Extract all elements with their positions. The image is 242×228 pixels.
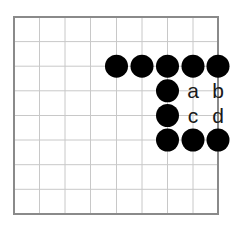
black-stone (156, 55, 179, 78)
point-label-a: a (187, 79, 199, 102)
black-stone (156, 79, 179, 102)
black-stone (156, 104, 179, 127)
black-stone (131, 55, 154, 78)
black-stone (207, 55, 230, 78)
black-stone (182, 129, 205, 152)
black-stone (156, 129, 179, 152)
go-board: abcd (0, 0, 242, 228)
point-label-b: b (212, 79, 224, 102)
black-stone (105, 55, 128, 78)
point-label-d: d (212, 104, 224, 127)
black-stone (182, 55, 205, 78)
black-stone (207, 129, 230, 152)
point-label-c: c (188, 104, 199, 127)
labels-layer: abcd (187, 79, 224, 127)
